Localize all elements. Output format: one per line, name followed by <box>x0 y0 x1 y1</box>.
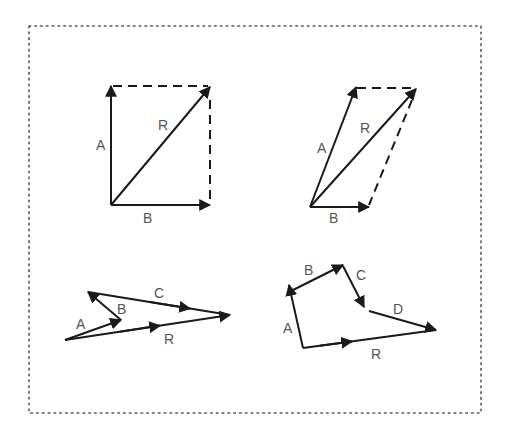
label-b: B <box>117 301 126 317</box>
label-a: A <box>76 316 86 332</box>
vector-c-arrow <box>150 302 190 309</box>
label-d: D <box>393 301 403 317</box>
label-r: R <box>158 117 168 133</box>
label-a: A <box>283 320 293 336</box>
vector-addition-diagram: A R B A R B A B C R <box>0 0 510 428</box>
dotted-frame <box>29 26 481 413</box>
label-b: B <box>329 210 338 226</box>
vector-r-mid-arrow <box>120 326 160 332</box>
label-b: B <box>143 210 152 226</box>
figure-parallelogram-oblique: A R B <box>310 87 416 226</box>
dashed-guide-right <box>369 100 412 205</box>
label-c: C <box>356 267 366 283</box>
vector-b-arrow <box>289 265 343 292</box>
vector-a-arrow <box>65 320 121 340</box>
label-b: B <box>304 262 313 278</box>
figure-parallelogram-right-angle: A R B <box>96 86 210 226</box>
label-a: A <box>317 140 327 156</box>
label-r: R <box>360 120 370 136</box>
figure-polygon-three: A B C R <box>65 285 230 347</box>
figure-polygon-four: A B C D R <box>283 262 436 362</box>
label-r: R <box>164 331 174 347</box>
vector-a-arrow <box>289 285 303 348</box>
vector-r-arrow <box>111 87 210 205</box>
label-a: A <box>96 137 106 153</box>
label-r: R <box>371 346 381 362</box>
vector-r-mid-arrow <box>320 341 352 345</box>
label-c: C <box>154 285 164 301</box>
